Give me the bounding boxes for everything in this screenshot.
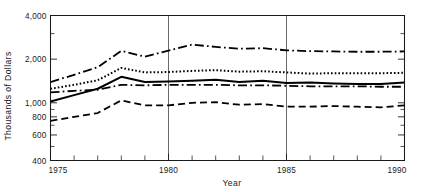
- x-tick-label-1990: 1990: [387, 166, 406, 175]
- y-tick-label-1000: 1,000: [25, 99, 47, 108]
- y-tick-label-800: 800: [32, 113, 47, 122]
- chart-container: 4006008001,0002,0004,000 197519801985199…: [0, 0, 427, 192]
- x-tick-label-1985: 1985: [277, 166, 296, 175]
- x-tick-label-1980: 1980: [159, 166, 178, 175]
- x-axis-title: Year: [223, 178, 242, 188]
- line-chart: 4006008001,0002,0004,000 197519801985199…: [0, 0, 427, 192]
- y-axis-title: Thousands of Dollars: [3, 51, 13, 140]
- y-tick-label-4000: 4,000: [25, 12, 47, 21]
- x-tick-label-1975: 1975: [49, 166, 68, 175]
- y-tick-label-600: 600: [32, 131, 47, 140]
- chart-background: [0, 0, 427, 192]
- y-tick-label-400: 400: [32, 157, 47, 166]
- y-tick-label-2000: 2,000: [25, 55, 47, 64]
